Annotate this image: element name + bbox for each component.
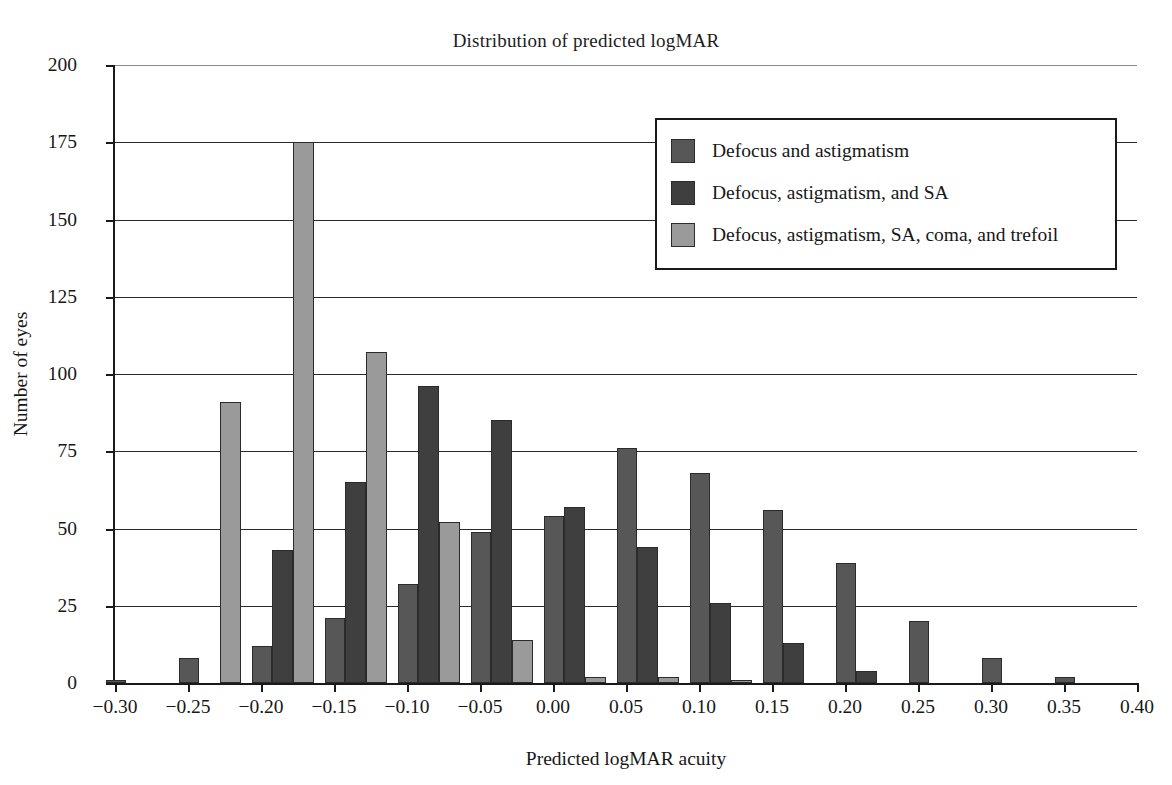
bar: [179, 658, 200, 683]
legend-swatch-icon: [671, 139, 695, 163]
bar: [783, 643, 804, 683]
bar: [512, 640, 533, 683]
y-axis-tick-label: 0: [0, 672, 77, 694]
bar: [637, 547, 658, 683]
bar: [909, 621, 930, 683]
y-axis-tick-label: 150: [0, 209, 77, 231]
y-axis-tick: [106, 683, 115, 685]
x-axis-tick: [991, 683, 993, 692]
bar: [439, 522, 460, 683]
bar: [418, 386, 439, 683]
y-axis-tick: [106, 142, 115, 144]
bar: [491, 420, 512, 683]
bar: [293, 142, 314, 683]
x-axis-tick: [918, 683, 920, 692]
legend-item-label: Defocus, astigmatism, SA, coma, and tref…: [712, 225, 1058, 245]
x-axis-tick: [188, 683, 190, 692]
legend-item: Defocus and astigmatism: [671, 130, 1101, 172]
y-axis-tick-label: 200: [0, 54, 77, 76]
bar: [220, 402, 241, 683]
y-axis-tick-label: 25: [0, 595, 77, 617]
x-axis-tick: [334, 683, 336, 692]
bar: [252, 646, 273, 683]
x-axis-tick: [553, 683, 555, 692]
bar: [471, 532, 492, 683]
x-axis-tick: [261, 683, 263, 692]
bar: [763, 510, 784, 683]
y-axis-tick-label: 175: [0, 131, 77, 153]
x-axis-tick: [772, 683, 774, 692]
chart-title: Distribution of predicted logMAR: [0, 30, 1172, 52]
bar: [690, 473, 711, 683]
bar: [856, 671, 877, 683]
x-axis-tick: [626, 683, 628, 692]
bar: [366, 352, 387, 683]
bar: [658, 677, 679, 683]
y-axis-tick: [106, 529, 115, 531]
y-axis-tick: [106, 297, 115, 299]
bar: [836, 563, 857, 684]
y-axis-tick-label: 125: [0, 286, 77, 308]
y-axis-tick: [106, 65, 115, 67]
x-axis-tick: [699, 683, 701, 692]
bar: [272, 550, 293, 683]
x-axis-tick: [407, 683, 409, 692]
y-axis-tick-label: 75: [0, 440, 77, 462]
gridline: [115, 374, 1137, 375]
bar: [617, 448, 638, 683]
y-axis-tick: [106, 451, 115, 453]
bar: [345, 482, 366, 683]
x-axis-tick: [1064, 683, 1066, 692]
bar: [710, 603, 731, 683]
x-axis-tick: [845, 683, 847, 692]
legend-swatch-icon: [671, 223, 695, 247]
chart-legend: Defocus and astigmatism Defocus, astigma…: [655, 118, 1117, 270]
bar: [564, 507, 585, 683]
legend-item-label: Defocus and astigmatism: [712, 141, 909, 161]
y-axis-tick: [106, 220, 115, 222]
y-axis-tick: [106, 374, 115, 376]
legend-item: Defocus, astigmatism, and SA: [671, 172, 1101, 214]
x-axis-tick: [480, 683, 482, 692]
x-axis-tick-label: 0.40: [1082, 696, 1172, 718]
x-axis-tick: [115, 683, 117, 692]
x-axis-tick: [1137, 683, 1139, 692]
bar: [544, 516, 565, 683]
y-axis-tick-label: 50: [0, 518, 77, 540]
chart-figure: Distribution of predicted logMAR Number …: [0, 0, 1172, 785]
gridline: [115, 65, 1137, 66]
legend-swatch-icon: [671, 181, 695, 205]
gridline: [115, 297, 1137, 298]
legend-item: Defocus, astigmatism, SA, coma, and tref…: [671, 214, 1101, 256]
bar: [731, 680, 752, 683]
y-axis-tick: [106, 606, 115, 608]
bar: [398, 584, 419, 683]
bar: [585, 677, 606, 683]
bar: [325, 618, 346, 683]
bar: [982, 658, 1003, 683]
x-axis-label: Predicted logMAR acuity: [115, 748, 1137, 770]
legend-item-label: Defocus, astigmatism, and SA: [712, 183, 949, 203]
y-axis-tick-label: 100: [0, 363, 77, 385]
